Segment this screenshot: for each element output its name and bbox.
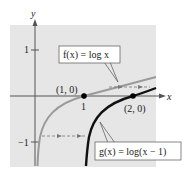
point-1-0-label: (1, 0) [56,84,78,96]
point-1-0 [81,93,87,99]
x-axis-label: x [166,91,172,102]
point-2-0-label: (2, 0) [124,103,146,115]
tick-ym1-label: −1 [18,137,29,148]
g-label: g(x) = log(x − 1) [99,146,166,158]
y-axis-label: y [30,8,36,19]
point-2-0 [130,93,136,99]
y-axis-arrow-icon [33,19,38,26]
x-axis-arrow-icon [159,94,166,99]
graph: y x 1 −1 1 (1, 0) (2, 0) f(x) = log x g(… [0,0,193,176]
f-label: f(x) = log x [63,49,109,61]
tick-x1-label: 1 [81,101,86,112]
tick-y1-label: 1 [24,44,29,55]
